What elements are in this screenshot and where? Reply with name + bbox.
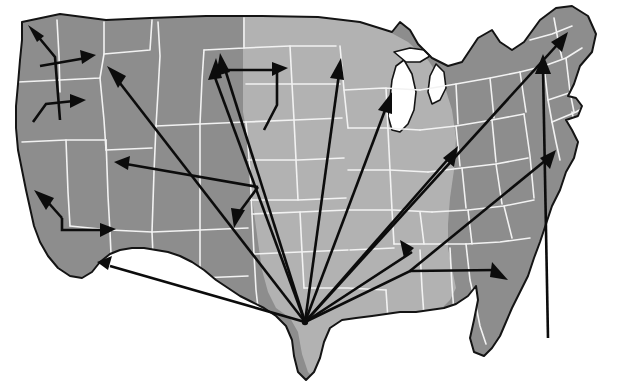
us-flow-map-figure: United States migration flow map bbox=[0, 0, 624, 389]
primary-hub-marker bbox=[302, 319, 308, 325]
us-map-canvas: United States migration flow map bbox=[0, 0, 624, 389]
